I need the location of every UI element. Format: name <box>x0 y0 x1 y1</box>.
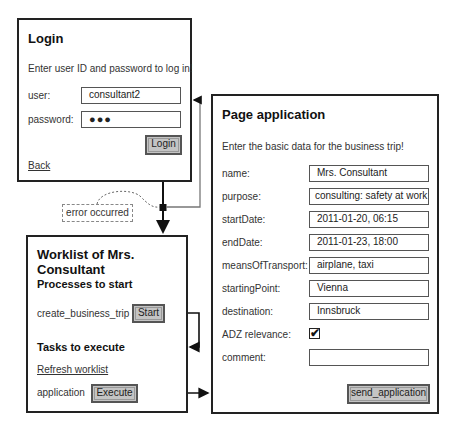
destination-input[interactable]: Innsbruck <box>309 303 429 320</box>
name-input[interactable]: Mrs. Consultant <box>309 165 429 182</box>
start-button[interactable]: Start <box>132 304 165 323</box>
means-of-transport-input[interactable]: airplane, taxi <box>309 257 429 274</box>
worklist-panel: Worklist of Mrs. Consultant Processes to… <box>26 235 188 413</box>
user-label: user: <box>28 90 50 101</box>
field-label-purpose: purpose: <box>222 191 261 202</box>
password-label: password: <box>28 114 74 125</box>
checkmark-icon: ✔ <box>310 326 320 340</box>
field-label-startdate: startDate: <box>222 214 265 225</box>
login-panel: Login Enter user ID and password to log … <box>17 18 192 182</box>
refresh-worklist-link[interactable]: Refresh worklist <box>37 364 108 375</box>
error-occurred-note: error occurred <box>62 204 133 222</box>
tasks-heading: Tasks to execute <box>37 341 125 353</box>
back-link[interactable]: Back <box>28 160 50 171</box>
comment-label: comment: <box>222 352 266 363</box>
process-name: create_business_trip <box>37 308 129 319</box>
login-button[interactable]: Login <box>145 135 182 155</box>
field-label-means-of-transport: meansOfTransport: <box>222 260 308 271</box>
page-application-instruction: Enter the basic data for the business tr… <box>222 141 404 152</box>
purpose-input[interactable]: consulting: safety at work <box>309 188 429 205</box>
field-label-starting-point: startingPoint: <box>222 283 280 294</box>
comment-input[interactable] <box>309 349 429 366</box>
task-name: application <box>37 387 85 398</box>
password-input[interactable]: ●●● <box>81 111 181 128</box>
worklist-title: Worklist of Mrs. Consultant <box>37 247 186 277</box>
page-application-title: Page application <box>222 107 325 122</box>
enddate-input[interactable]: 2011-01-23, 18:00 <box>309 234 429 251</box>
page-application-panel: Page application Enter the basic data fo… <box>211 94 439 414</box>
starting-point-input[interactable]: Vienna <box>309 280 429 297</box>
processes-heading: Processes to start <box>37 278 132 290</box>
field-label-name: name: <box>222 168 250 179</box>
field-label-enddate: endDate: <box>222 237 263 248</box>
adz-relevance-label: ADZ relevance: <box>222 329 291 340</box>
login-instruction: Enter user ID and password to log in! <box>28 63 193 74</box>
execute-button[interactable]: Execute <box>91 384 138 403</box>
login-title: Login <box>28 31 63 46</box>
adz-relevance-checkbox[interactable]: ✔ <box>309 328 320 339</box>
startdate-input[interactable]: 2011-01-20, 06:15 <box>309 211 429 228</box>
junction-dot <box>160 204 167 211</box>
field-label-destination: destination: <box>222 306 273 317</box>
user-input[interactable]: consultant2 <box>81 87 181 104</box>
send-application-button[interactable]: send_application <box>347 384 430 404</box>
